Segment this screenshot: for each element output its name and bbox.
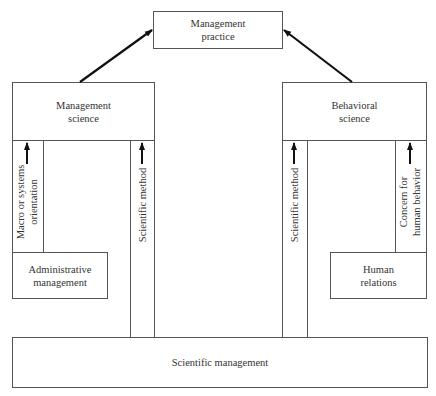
arrows-layer [0,0,436,396]
arrow-behavioral-science-to-practice [284,30,352,82]
arrow-management-science-to-practice [80,30,152,82]
